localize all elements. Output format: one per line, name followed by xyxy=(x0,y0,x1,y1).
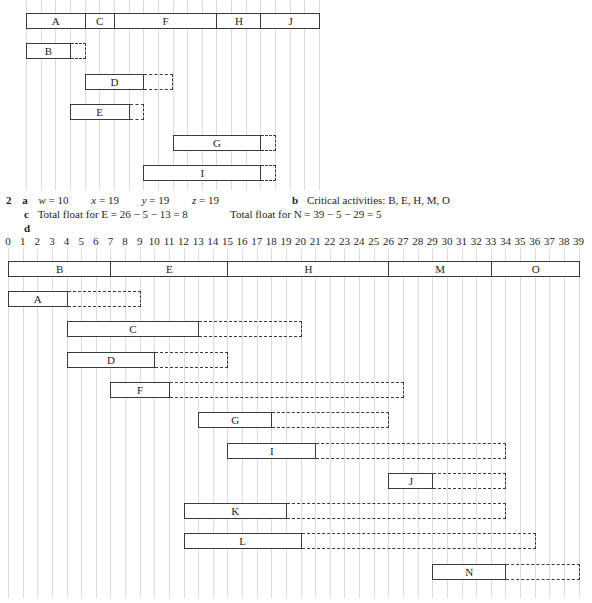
tick-label: 28 xyxy=(412,235,423,247)
part-a-label: a xyxy=(22,194,28,206)
tick-label: 25 xyxy=(368,235,379,247)
gridline xyxy=(579,249,580,598)
tick-label: 34 xyxy=(500,235,511,247)
answer-line-a: 2 a w = 10 x = 19 y = 19 z = 19 xyxy=(6,194,219,206)
gridline xyxy=(549,249,550,598)
answer-line-b: b Critical activities: B, E, H, M, O xyxy=(292,194,450,206)
tick-label: 16 xyxy=(237,235,248,247)
float-n-text: Total float for N = 39 − 5 − 29 = 5 xyxy=(230,208,381,220)
critical-activity-M: M xyxy=(389,262,491,276)
critical-activity-F: F xyxy=(115,14,218,28)
tick-label: 14 xyxy=(207,235,218,247)
float-bar-K xyxy=(287,503,506,519)
tick-label: 31 xyxy=(456,235,467,247)
tick-label: 9 xyxy=(137,235,143,247)
critical-activity-O: O xyxy=(492,262,580,276)
activity-bar-A: A xyxy=(8,291,68,307)
tick-label: 19 xyxy=(280,235,291,247)
tick-label: 15 xyxy=(222,235,233,247)
tick-label: 2 xyxy=(35,235,41,247)
critical-activity-A: A xyxy=(27,14,86,28)
float-bar-E xyxy=(130,104,145,120)
val-w: = 10 xyxy=(46,194,69,206)
activity-bar-J: J xyxy=(388,473,433,489)
tick-label: 13 xyxy=(193,235,204,247)
float-bar-J xyxy=(433,473,506,489)
activity-bar-E: E xyxy=(70,104,130,120)
tick-label: 32 xyxy=(471,235,482,247)
tick-label: 23 xyxy=(339,235,350,247)
tick-label: 10 xyxy=(149,235,160,247)
critical-activities-text: Critical activities: B, E, H, M, O xyxy=(307,194,450,206)
activity-bar-B: B xyxy=(26,43,71,59)
float-bar-F xyxy=(170,382,404,398)
tick-label: 7 xyxy=(108,235,114,247)
critical-activity-J: J xyxy=(261,14,320,28)
tick-label: 26 xyxy=(383,235,394,247)
activity-bar-L: L xyxy=(184,533,302,549)
critical-path-bar: ACFHJ xyxy=(26,13,320,29)
tick-label: 6 xyxy=(93,235,99,247)
tick-label: 12 xyxy=(178,235,189,247)
critical-activity-B: B xyxy=(9,262,111,276)
float-bar-A xyxy=(68,291,141,307)
float-bar-D xyxy=(144,74,173,90)
tick-label: 11 xyxy=(164,235,175,247)
tick-label: 33 xyxy=(485,235,496,247)
activity-bar-G: G xyxy=(198,412,272,428)
critical-activity-H: H xyxy=(228,262,389,276)
activity-bar-F: F xyxy=(110,382,170,398)
float-bar-B xyxy=(71,43,86,59)
tick-label: 18 xyxy=(266,235,277,247)
float-bar-G xyxy=(272,412,389,428)
tick-label: 27 xyxy=(398,235,409,247)
part-c-label: c xyxy=(24,208,29,220)
tick-label: 21 xyxy=(310,235,321,247)
x-axis-ticks: 0123456789101112131415161718192021222324… xyxy=(0,235,592,249)
float-bar-N xyxy=(506,564,579,580)
critical-activity-H: H xyxy=(217,14,261,28)
critical-activity-C: C xyxy=(86,14,115,28)
part-d-label: d xyxy=(24,222,30,234)
activity-bar-I: I xyxy=(143,165,261,181)
activity-bar-N: N xyxy=(432,564,506,580)
tick-label: 22 xyxy=(324,235,335,247)
tick-label: 39 xyxy=(573,235,584,247)
activity-bar-K: K xyxy=(184,503,287,519)
float-bar-C xyxy=(199,321,301,337)
tick-label: 24 xyxy=(354,235,365,247)
gridline xyxy=(564,249,565,598)
part-b-label: b xyxy=(292,194,298,206)
activity-bar-D: D xyxy=(67,352,156,368)
gantt-chart-part-2: BEHMOACDFGIJKLN xyxy=(0,249,592,598)
val-y: = 19 xyxy=(147,194,170,206)
tick-label: 37 xyxy=(544,235,555,247)
tick-label: 20 xyxy=(295,235,306,247)
tick-label: 5 xyxy=(78,235,84,247)
float-e-text: Total float for E = 26 − 5 − 13 = 8 xyxy=(38,208,188,220)
float-bar-I xyxy=(316,443,506,459)
tick-label: 36 xyxy=(529,235,540,247)
float-bar-D xyxy=(155,352,228,368)
tick-label: 30 xyxy=(441,235,452,247)
tick-label: 8 xyxy=(122,235,128,247)
answer-line-d: d xyxy=(24,222,30,234)
tick-label: 17 xyxy=(251,235,262,247)
question-number: 2 xyxy=(6,194,12,206)
tick-label: 29 xyxy=(427,235,438,247)
critical-path-bar: BEHMO xyxy=(8,261,580,277)
tick-label: 0 xyxy=(5,235,11,247)
tick-label: 1 xyxy=(20,235,26,247)
activity-bar-D: D xyxy=(85,74,145,90)
tick-label: 38 xyxy=(558,235,569,247)
tick-label: 4 xyxy=(64,235,70,247)
answer-line-c: c Total float for E = 26 − 5 − 13 = 8 xyxy=(24,208,188,220)
activity-bar-I: I xyxy=(227,443,316,459)
answer-line-c-n: Total float for N = 39 − 5 − 29 = 5 xyxy=(230,208,381,220)
float-bar-I xyxy=(261,165,276,181)
gridline xyxy=(154,249,155,598)
val-x: = 19 xyxy=(96,194,119,206)
var-w: w xyxy=(39,194,46,206)
critical-activity-E: E xyxy=(111,262,228,276)
activity-bar-C: C xyxy=(67,321,200,337)
